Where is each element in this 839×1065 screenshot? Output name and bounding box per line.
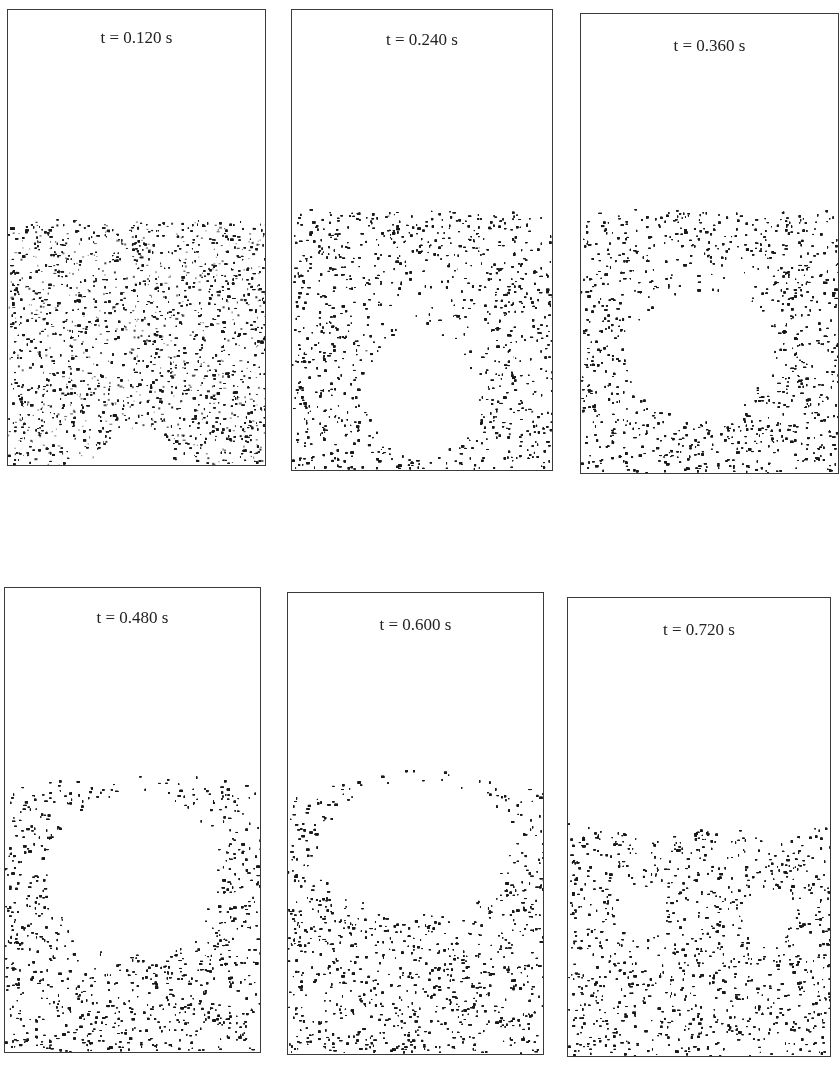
particle-bed-canvas <box>568 598 831 1057</box>
panel-t-0120: t = 0.120 s <box>7 9 266 466</box>
time-label: t = 0.600 s <box>288 615 543 635</box>
time-label: t = 0.480 s <box>5 608 260 628</box>
panel-t-0240: t = 0.240 s <box>291 9 553 471</box>
particle-bed-canvas <box>288 593 544 1055</box>
panel-t-0360: t = 0.360 s <box>580 13 839 474</box>
time-label: t = 0.720 s <box>568 620 830 640</box>
particle-bed-canvas <box>292 10 553 471</box>
time-label: t = 0.240 s <box>292 30 552 50</box>
particle-bed-canvas <box>5 588 261 1053</box>
time-label: t = 0.120 s <box>8 28 265 48</box>
particle-bed-canvas <box>8 10 266 466</box>
panel-t-0480: t = 0.480 s <box>4 587 261 1053</box>
particle-bed-canvas <box>581 14 839 474</box>
panel-t-0720: t = 0.720 s <box>567 597 831 1057</box>
time-label: t = 0.360 s <box>581 36 838 56</box>
panel-t-0600: t = 0.600 s <box>287 592 544 1055</box>
